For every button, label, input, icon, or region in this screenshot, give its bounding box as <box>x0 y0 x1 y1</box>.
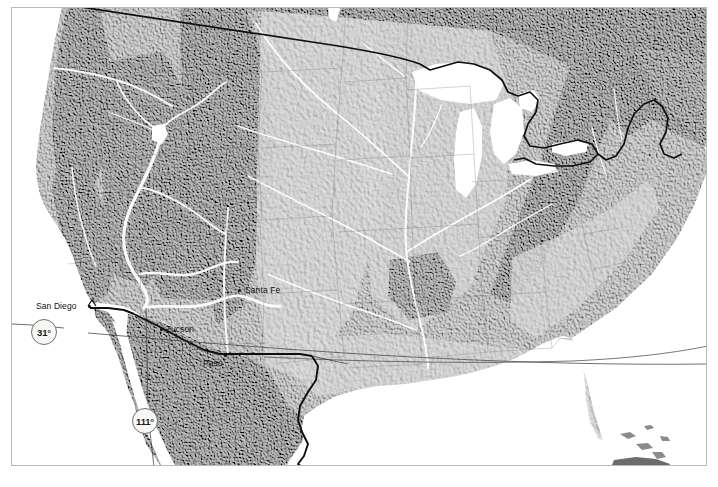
city-label-el-paso: Paso <box>203 358 223 368</box>
graticule-label-latitude-31: 31° <box>31 319 57 345</box>
city-marker-tucson <box>160 328 163 331</box>
city-label-tucson: Tucson <box>166 324 194 334</box>
relief-map-figure: San Diego Tucson Paso Santa Fe 31° 111° <box>0 0 718 487</box>
city-label-santa-fe: Santa Fe <box>245 285 280 295</box>
map-label-layer: San Diego Tucson Paso Santa Fe 31° 111° <box>12 8 707 466</box>
graticule-label-longitude-111: 111° <box>132 408 158 434</box>
city-marker-san-diego <box>88 305 91 308</box>
map-neatline-frame: San Diego Tucson Paso Santa Fe 31° 111° <box>11 7 707 466</box>
city-marker-el-paso <box>224 354 227 357</box>
city-label-san-diego: San Diego <box>36 301 77 311</box>
city-marker-santa-fe <box>238 289 241 292</box>
